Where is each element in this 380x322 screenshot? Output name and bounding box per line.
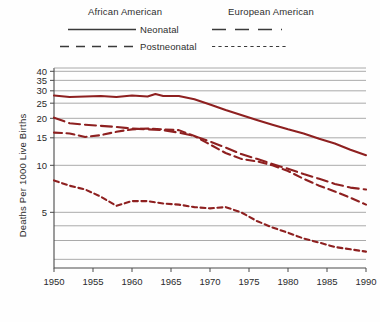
grid-lines [54,71,366,259]
legend-swatch-european-american-postneonatal [212,41,286,52]
y-tick-label: 15 [36,132,47,143]
x-tick-label: 1975 [238,276,259,287]
y-tick-label: 20 [36,113,47,124]
legend-label-postneonatal: Postneonatal [140,41,197,52]
x-tick-label: 1990 [355,276,376,287]
series-line-european-american-postneonatal [54,180,366,251]
legend-group-title-european-american: European American [228,6,314,17]
chart-legend: African American European American Neona… [0,0,380,62]
series-line-european-american-neonatal [54,129,366,205]
y-tick-label: 25 [36,98,47,109]
x-tick-label: 1970 [199,276,220,287]
y-tick-label: 40 [36,66,47,77]
legend-swatch-african-american-postneonatal [60,41,136,52]
x-tick-label: 1960 [121,276,142,287]
legend-swatch-african-american-neonatal [68,24,136,35]
chart-svg: 510152025303540 195019551960196519701975… [0,62,380,322]
x-axis-ticks: 195019551960196519701975198019851990 [43,268,376,287]
y-axis-ticks: 510152025303540 [36,66,54,218]
y-tick-label: 30 [36,85,47,96]
plot-area: 510152025303540 195019551960196519701975… [0,62,380,322]
x-tick-label: 1955 [82,276,103,287]
y-axis-title: Deaths Per 1000 Live Births [17,96,28,256]
y-tick-label: 5 [42,207,47,218]
legend-group-title-african-american: African American [88,6,162,17]
y-tick-label: 10 [36,160,47,171]
data-series [54,94,366,252]
x-tick-label: 1980 [277,276,298,287]
x-tick-label: 1965 [160,276,181,287]
axis-lines [54,68,366,268]
x-tick-label: 1950 [43,276,64,287]
x-tick-label: 1985 [316,276,337,287]
chart-container: African American European American Neona… [0,0,380,322]
legend-row-neonatal: Neonatal [0,24,380,38]
legend-row-postneonatal: Postneonatal [0,41,380,55]
legend-label-neonatal: Neonatal [140,24,179,35]
legend-swatch-european-american-neonatal [212,24,282,35]
series-line-african-american-postneonatal [54,118,366,190]
